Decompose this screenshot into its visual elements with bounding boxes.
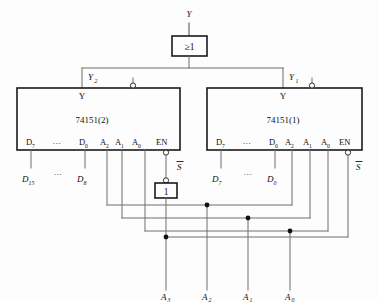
data-input-d15: D 15	[21, 174, 34, 186]
address-bus-a2	[107, 150, 292, 290]
data-input-ellipsis-left: …	[54, 167, 63, 177]
chip-74151-1-pin-en: EN	[339, 137, 350, 147]
enable-label-right: S	[356, 162, 363, 173]
svg-text:0: 0	[327, 143, 330, 149]
data-input-ellipsis-right: …	[244, 167, 253, 177]
svg-text:0: 0	[85, 143, 88, 149]
chip-74151-1-pin-ellipsis: …	[243, 136, 252, 146]
svg-text:8: 8	[84, 180, 87, 186]
address-input-a3: A 3	[160, 292, 171, 302]
svg-text:15: 15	[29, 180, 35, 186]
svg-text:0: 0	[275, 143, 278, 149]
svg-text:A: A	[201, 292, 208, 302]
y1-signal-label: Y 1	[289, 72, 299, 84]
svg-text:0: 0	[274, 180, 277, 186]
svg-text:S: S	[356, 162, 361, 172]
svg-text:A: A	[160, 292, 167, 302]
address-input-a0: A 0	[284, 292, 295, 302]
y2-signal-label: Y 2	[88, 72, 98, 84]
chip-74151-2-pin-en: EN	[156, 137, 167, 147]
address-input-a2: A 2	[201, 292, 212, 302]
or-gate-symbol: ≥1	[185, 42, 195, 52]
svg-text:1: 1	[121, 143, 124, 149]
chip-74151-1-data-stubs	[221, 150, 275, 168]
address-bus-a1	[122, 150, 310, 290]
address-input-a1: A 1	[242, 292, 253, 302]
chip-74151-1-en-net	[166, 155, 348, 237]
svg-text:3: 3	[167, 297, 171, 302]
svg-text:0: 0	[292, 297, 295, 302]
or-gate-input-net	[82, 56, 283, 88]
chip-74151-1-y-label: Y	[280, 91, 287, 101]
chip-74151-1-y-bubble	[309, 78, 314, 88]
svg-text:Y: Y	[289, 72, 295, 82]
svg-text:7: 7	[219, 180, 223, 186]
svg-text:1: 1	[296, 78, 299, 84]
svg-text:7: 7	[32, 143, 35, 149]
chip-74151-1-name: 74151(1)	[267, 115, 300, 125]
svg-text:2: 2	[209, 297, 212, 302]
svg-text:Y: Y	[88, 72, 94, 82]
svg-text:2: 2	[291, 143, 294, 149]
svg-text:A: A	[242, 292, 249, 302]
data-input-d0: D 0	[266, 174, 277, 186]
svg-text:2: 2	[95, 78, 98, 84]
chip-74151-2-data-stubs	[31, 150, 85, 168]
chip-74151-2-name: 74151(2)	[76, 115, 109, 125]
chip-74151-2-y-bubble	[130, 78, 135, 88]
svg-text:7: 7	[222, 143, 225, 149]
svg-text:1: 1	[309, 143, 312, 149]
schematic-canvas: Y ≥1 Y 2 Y 1 Y 74151(2) D 7 … D 0 A 2 A	[0, 0, 378, 302]
data-input-d8: D 8	[76, 174, 87, 186]
svg-text:A: A	[284, 292, 291, 302]
svg-text:2: 2	[106, 143, 109, 149]
chip-74151-2-pin-ellipsis: …	[53, 136, 62, 146]
enable-label-left: S	[177, 162, 184, 173]
chip-74151-2-y-label: Y	[79, 91, 86, 101]
svg-text:1: 1	[250, 297, 253, 302]
svg-text:0: 0	[138, 143, 141, 149]
address-bus-a3	[164, 235, 169, 290]
output-y-label: Y	[186, 9, 192, 19]
data-input-d7: D 7	[211, 174, 223, 186]
logic-diagram: Y ≥1 Y 2 Y 1 Y 74151(2) D 7 … D 0 A 2 A	[0, 0, 378, 302]
svg-text:S: S	[177, 162, 182, 172]
address-bus-a0	[145, 150, 328, 290]
chip-74151-2-en-bubble	[163, 150, 168, 155]
chip-74151-1-en-bubble	[345, 150, 350, 155]
inverter-symbol: 1	[164, 187, 169, 197]
